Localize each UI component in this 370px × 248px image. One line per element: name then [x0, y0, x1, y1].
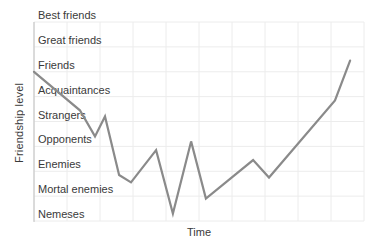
- y-axis-label: Nemeses: [38, 208, 85, 220]
- y-axis-label: Mortal enemies: [38, 183, 114, 195]
- y-axis-label: Best friends: [38, 9, 97, 21]
- y-axis-label: Friends: [38, 59, 75, 71]
- friendship-chart: NemesesMortal enemiesEnemiesOpponentsStr…: [0, 0, 370, 248]
- y-axis-title: Friendship level: [11, 56, 26, 190]
- y-axis-label: Enemies: [38, 158, 81, 170]
- chart-canvas: NemesesMortal enemiesEnemiesOpponentsStr…: [0, 0, 370, 248]
- x-axis-title: Time: [34, 226, 364, 238]
- y-axis-label: Opponents: [38, 133, 92, 145]
- y-axis-label: Great friends: [38, 34, 102, 46]
